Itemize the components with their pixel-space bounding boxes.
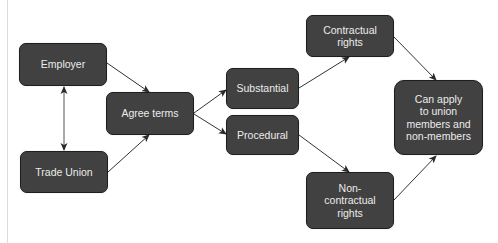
node-can-apply-label: Can apply to union members and non-membe…	[406, 93, 471, 143]
arrow-trade-union-agree-terms	[108, 135, 149, 172]
node-substantial: Substantial	[226, 68, 299, 109]
arrow-contractual-can-apply	[394, 37, 436, 80]
node-trade-union: Trade Union	[20, 151, 108, 193]
arrow-substantial-contractual	[299, 57, 349, 88]
node-employer: Employer	[19, 43, 107, 86]
arrow-employer-agree-terms	[107, 63, 149, 92]
node-substantial-label: Substantial	[237, 82, 289, 95]
arrow-agree-terms-procedural	[194, 114, 226, 134]
node-trade-union-label: Trade Union	[35, 166, 92, 179]
diagram-canvas: Employer Trade Union Agree terms Substan…	[0, 0, 498, 243]
arrow-procedural-non-contractual	[299, 135, 349, 172]
arrow-agree-terms-substantial	[194, 90, 226, 113]
node-employer-label: Employer	[41, 58, 85, 71]
arrow-non-contractual-can-apply	[394, 156, 436, 200]
node-agree-terms-label: Agree terms	[121, 107, 178, 120]
node-agree-terms: Agree terms	[106, 92, 194, 135]
node-can-apply: Can apply to union members and non-membe…	[394, 80, 483, 155]
node-procedural-label: Procedural	[237, 129, 288, 142]
node-non-contractual-rights-label: Non- contractual rights	[324, 182, 375, 220]
node-non-contractual-rights: Non- contractual rights	[306, 172, 394, 229]
node-contractual-rights-label: Contractual rights	[323, 24, 377, 49]
node-contractual-rights: Contractual rights	[306, 15, 394, 57]
node-procedural: Procedural	[226, 115, 299, 155]
